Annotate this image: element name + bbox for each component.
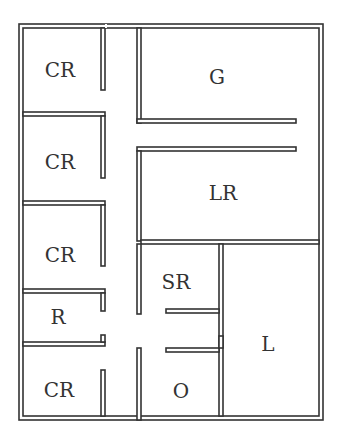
room-label-lr: LR: [209, 181, 238, 205]
room-label-o: O: [173, 379, 189, 403]
room-label-l: L: [261, 332, 274, 356]
room-label-cr2: CR: [45, 150, 76, 174]
room-label-cr3: CR: [45, 243, 76, 267]
room-label-cr4: CR: [44, 378, 75, 402]
room-label-g: G: [209, 65, 225, 89]
floor-plan: CR CR CR R CR G LR SR L O: [0, 0, 338, 445]
room-label-sr: SR: [162, 270, 192, 294]
outer-wall: [19, 24, 323, 420]
room-label-cr1: CR: [45, 58, 76, 82]
room-label-r: R: [50, 305, 66, 329]
